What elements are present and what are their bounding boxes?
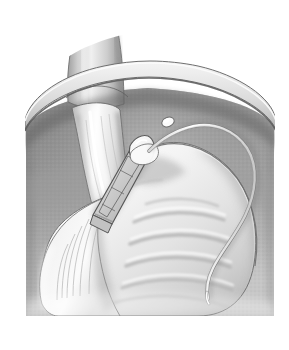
medical-illustration-figure: Laparoscopic adjustable gastric band pla…: [0, 0, 289, 350]
bottom-margin-mask: [0, 316, 289, 350]
top-margin-mask: [0, 0, 289, 25]
illustration-canvas: [0, 0, 289, 350]
left-margin-mask: [0, 0, 25, 350]
right-margin-mask: [275, 0, 289, 350]
